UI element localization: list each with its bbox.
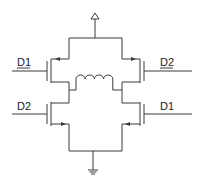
top-rail xyxy=(69,38,122,59)
label-bottom-left: D2 xyxy=(17,100,31,112)
transistor-bottom-right xyxy=(122,102,192,151)
label-top-left: D1 xyxy=(17,56,31,68)
inductor-icon xyxy=(76,75,117,90)
label-top-right: D2 xyxy=(160,56,174,68)
vdd-supply-icon xyxy=(91,13,99,38)
transistor-top-right xyxy=(117,57,192,90)
ground-icon xyxy=(88,151,98,174)
label-bottom-right: D1 xyxy=(160,100,174,112)
h-bridge-diagram: D1 D2 D2 D1 xyxy=(0,0,203,185)
